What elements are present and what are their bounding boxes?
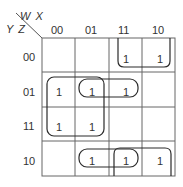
cell-r1-c1: 1 bbox=[89, 86, 95, 98]
cell-r3-c1: 1 bbox=[89, 155, 95, 167]
grid-lines bbox=[42, 38, 175, 176]
cell-r0-c2: 1 bbox=[123, 53, 129, 65]
cell-r2-c0: 1 bbox=[56, 121, 62, 133]
cell-r0-c3: 1 bbox=[157, 53, 163, 65]
cell-r3-c3: 1 bbox=[157, 155, 163, 167]
cell-r1-c2: 1 bbox=[123, 86, 129, 98]
cell-r1-c0: 1 bbox=[56, 86, 62, 98]
cell-r3-c2: 1 bbox=[123, 155, 129, 167]
cell-r2-c1: 1 bbox=[89, 121, 95, 133]
corner-diagonal bbox=[16, 13, 42, 38]
